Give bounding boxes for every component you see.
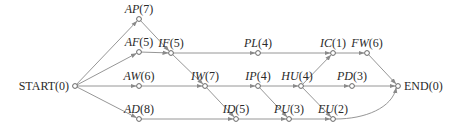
node-duration: (0)	[55, 79, 69, 93]
node-duration: (5)	[139, 35, 153, 49]
node-pl: PL(4)	[243, 36, 272, 55]
node-duration: (7)	[139, 2, 153, 16]
node-name: IP	[244, 69, 257, 83]
node-duration: (6)	[369, 36, 383, 50]
node-duration: (2)	[334, 102, 348, 116]
node-ic: IC(1)	[319, 36, 346, 55]
node-start: START(0)	[19, 79, 78, 93]
node-marker	[73, 84, 78, 89]
node-marker	[137, 17, 142, 22]
node-ad: AD(8)	[123, 102, 154, 121]
node-duration: (0)	[429, 79, 443, 93]
node-label: PD(3)	[336, 69, 367, 83]
node-duration: (5)	[170, 36, 184, 50]
node-end: END(0)	[396, 79, 443, 93]
node-label: IW(7)	[190, 69, 219, 83]
node-fw: FW(6)	[350, 36, 382, 55]
node-ip: IP(4)	[244, 69, 270, 88]
node-marker	[287, 117, 292, 122]
node-ap: AP(7)	[124, 2, 154, 21]
node-marker	[169, 51, 174, 56]
node-name: START	[19, 79, 56, 93]
node-name: AW	[123, 69, 142, 83]
node-duration: (4)	[258, 36, 272, 50]
edge-fw-to-end	[369, 55, 396, 84]
edge-af-to-if	[141, 52, 168, 53]
node-name: EU	[317, 102, 335, 116]
node-marker	[256, 84, 261, 89]
node-pd: PD(3)	[336, 69, 367, 88]
node-marker	[365, 51, 370, 56]
activity-network-diagram: START(0)AP(7)AF(5)AW(6)AD(8)IF(5)IW(7)ID…	[0, 0, 461, 130]
node-marker	[137, 117, 142, 122]
node-marker	[396, 84, 401, 89]
nodes-layer: START(0)AP(7)AF(5)AW(6)AD(8)IF(5)IW(7)ID…	[19, 2, 443, 121]
node-id: ID(5)	[222, 102, 250, 121]
node-name: ID	[222, 102, 236, 116]
node-hu: HU(4)	[280, 69, 312, 88]
node-name: AF	[124, 35, 140, 49]
node-label: HU(4)	[280, 69, 312, 83]
node-label: AD(8)	[123, 102, 154, 116]
node-duration: (4)	[257, 69, 271, 83]
node-iw: IW(7)	[190, 69, 219, 88]
node-label: END(0)	[404, 79, 443, 93]
node-name: HU	[280, 69, 300, 83]
node-duration: (1)	[332, 36, 346, 50]
node-label: IP(4)	[244, 69, 270, 83]
node-duration: (5)	[235, 102, 249, 116]
node-marker	[137, 50, 142, 55]
node-name: PL	[243, 36, 258, 50]
node-marker	[137, 84, 142, 89]
node-pu: PU(3)	[273, 102, 304, 121]
node-name: FW	[350, 36, 369, 50]
node-aw: AW(6)	[123, 69, 155, 88]
node-af: AF(5)	[124, 35, 154, 54]
node-label: AF(5)	[124, 35, 154, 49]
node-marker	[256, 51, 261, 56]
node-marker	[350, 84, 355, 89]
node-duration: (6)	[140, 69, 154, 83]
node-name: IF	[157, 36, 170, 50]
node-label: PL(4)	[243, 36, 272, 50]
node-label: FW(6)	[350, 36, 382, 50]
node-name: IC	[319, 36, 333, 50]
node-name: PU	[273, 102, 291, 116]
node-duration: (3)	[353, 69, 367, 83]
node-duration: (3)	[290, 102, 304, 116]
node-duration: (8)	[140, 102, 154, 116]
node-marker	[331, 117, 336, 122]
node-name: PD	[336, 69, 353, 83]
node-label: IC(1)	[319, 36, 346, 50]
node-label: ID(5)	[222, 102, 250, 116]
node-marker	[299, 84, 304, 89]
node-label: EU(2)	[317, 102, 348, 116]
node-name: IW	[190, 69, 206, 83]
node-label: IF(5)	[157, 36, 183, 50]
node-label: START(0)	[19, 79, 69, 93]
node-label: AP(7)	[124, 2, 154, 16]
node-duration: (4)	[299, 69, 313, 83]
node-marker	[331, 51, 336, 56]
node-name: END	[404, 79, 429, 93]
node-label: PU(3)	[273, 102, 304, 116]
node-name: AP	[124, 2, 140, 16]
node-marker	[234, 117, 239, 122]
node-name: AD	[123, 102, 140, 116]
node-marker	[203, 84, 208, 89]
node-duration: (7)	[205, 69, 219, 83]
node-label: AW(6)	[123, 69, 155, 83]
